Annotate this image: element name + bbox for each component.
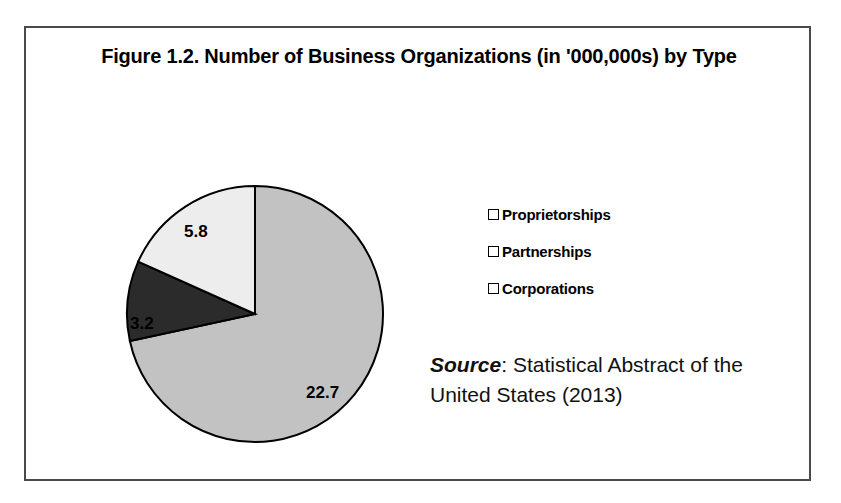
slice-label-corporations: 5.8 xyxy=(184,222,208,242)
pie-chart-svg xyxy=(124,183,386,445)
figure-frame: Figure 1.2. Number of Business Organizat… xyxy=(24,26,811,481)
slice-label-proprietorships: 22.7 xyxy=(306,383,339,403)
source-label: Source xyxy=(430,353,501,376)
chart-legend: Proprietorships Partnerships Corporation… xyxy=(488,196,728,307)
legend-swatch-icon xyxy=(488,209,499,220)
legend-item-label: Partnerships xyxy=(502,243,591,260)
legend-item-corporations: Corporations xyxy=(488,270,728,307)
source-separator: : xyxy=(501,353,513,376)
legend-swatch-icon xyxy=(488,283,499,294)
legend-swatch-icon xyxy=(488,246,499,257)
chart-title: Figure 1.2. Number of Business Organizat… xyxy=(86,44,752,69)
slice-label-partnerships: 3.2 xyxy=(130,314,154,334)
legend-item-partnerships: Partnerships xyxy=(488,233,728,270)
legend-item-label: Corporations xyxy=(502,280,594,297)
legend-item-label: Proprietorships xyxy=(502,206,611,223)
legend-item-proprietorships: Proprietorships xyxy=(488,196,728,233)
source-note: Source: Statistical Abstract of the Unit… xyxy=(430,350,760,410)
pie-chart: 22.7 3.2 5.8 xyxy=(124,183,386,445)
